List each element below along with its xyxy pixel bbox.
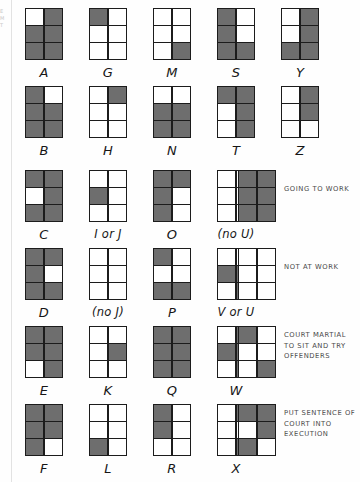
code-entry[interactable]: T bbox=[208, 86, 264, 158]
code-entry[interactable]: Q bbox=[144, 326, 200, 398]
code-entry[interactable]: M bbox=[144, 8, 200, 80]
flag-cell-4-filled bbox=[109, 344, 126, 360]
flag-cell-4-empty bbox=[109, 188, 126, 204]
code-entry[interactable]: H bbox=[80, 86, 136, 158]
flag-cell-3-empty bbox=[90, 344, 107, 360]
flag-cell-1-filled bbox=[239, 405, 256, 421]
flag-cell-4-empty bbox=[173, 188, 190, 204]
legend-entry[interactable]: COURT MARTIAL TO SIT AND TRY OFFENDERS bbox=[238, 326, 346, 378]
code-entry[interactable]: F bbox=[16, 404, 72, 476]
flag-cell-4-filled bbox=[301, 104, 318, 120]
flag-cell-2-empty bbox=[258, 327, 275, 343]
code-letter-label: I or J bbox=[80, 227, 136, 241]
code-letter-label: L bbox=[80, 461, 136, 476]
flag-grid bbox=[25, 170, 63, 222]
flag-cell-3-filled bbox=[90, 188, 107, 204]
flag-cell-3-filled bbox=[26, 344, 43, 360]
code-entry[interactable]: P bbox=[144, 248, 200, 320]
code-letter-label: D bbox=[16, 305, 72, 320]
code-letter-label: S bbox=[208, 65, 264, 80]
flag-cell-1-empty bbox=[90, 249, 107, 265]
code-entry[interactable]: C bbox=[16, 170, 72, 242]
flag-cell-6-empty bbox=[258, 283, 275, 299]
flag-cell-6-empty bbox=[173, 439, 190, 455]
code-entry[interactable]: K bbox=[80, 326, 136, 398]
code-letter-label: M bbox=[144, 65, 200, 80]
code-letter-label: (no U) bbox=[208, 227, 264, 241]
code-entry[interactable]: I or J bbox=[80, 170, 136, 241]
flag-cell-3-filled bbox=[154, 422, 171, 438]
flag-cell-1-empty bbox=[90, 405, 107, 421]
code-entry[interactable]: D bbox=[16, 248, 72, 320]
flag-cell-4-filled bbox=[45, 26, 62, 42]
flag-cell-1-empty bbox=[218, 171, 235, 187]
flag-cell-3-empty bbox=[154, 26, 171, 42]
code-letter-label: X bbox=[208, 461, 264, 476]
flag-cell-4-filled bbox=[301, 26, 318, 42]
flag-cell-2-empty bbox=[109, 249, 126, 265]
code-entry[interactable]: Z bbox=[272, 86, 328, 158]
legend-label: COURT MARTIAL TO SIT AND TRY OFFENDERS bbox=[284, 326, 346, 362]
legend-entry[interactable]: GOING TO WORK bbox=[238, 170, 349, 222]
code-entry[interactable]: N bbox=[144, 86, 200, 158]
flag-grid bbox=[153, 170, 191, 222]
code-entry[interactable]: O bbox=[144, 170, 200, 242]
flag-cell-1-empty bbox=[154, 87, 171, 103]
flag-grid bbox=[281, 8, 319, 60]
flag-cell-3-filled bbox=[218, 26, 235, 42]
flag-grid bbox=[281, 86, 319, 138]
flag-cell-2-filled bbox=[237, 87, 254, 103]
code-entry[interactable]: (no J) bbox=[80, 248, 136, 319]
flag-cell-6-filled bbox=[301, 43, 318, 59]
flag-cell-5-empty bbox=[90, 283, 107, 299]
flag-cell-6-empty bbox=[109, 439, 126, 455]
code-entry[interactable]: E bbox=[16, 326, 72, 398]
flag-cell-3-empty bbox=[282, 104, 299, 120]
flag-cell-4-filled bbox=[173, 344, 190, 360]
legend-entry[interactable]: PUT SENTENCE OF COURT INTO EXECUTION bbox=[238, 404, 355, 456]
code-entry[interactable]: R bbox=[144, 404, 200, 476]
flag-cell-5-empty bbox=[218, 205, 235, 221]
flag-cell-6-empty bbox=[301, 121, 318, 137]
flag-cell-5-empty bbox=[154, 43, 171, 59]
flag-cell-6-empty bbox=[109, 361, 126, 377]
code-letter-label: G bbox=[80, 65, 136, 80]
flag-cell-5-empty bbox=[239, 361, 256, 377]
flag-cell-1-filled bbox=[239, 327, 256, 343]
flag-grid bbox=[25, 404, 63, 456]
flag-cell-4-filled bbox=[237, 104, 254, 120]
flag-cell-3-filled bbox=[218, 344, 235, 360]
flag-cell-1-empty bbox=[218, 405, 235, 421]
flag-cell-5-filled bbox=[154, 205, 171, 221]
flag-cell-6-filled bbox=[258, 361, 275, 377]
code-entry[interactable]: B bbox=[16, 86, 72, 158]
flag-cell-1-empty bbox=[239, 249, 256, 265]
code-entry[interactable]: A bbox=[16, 8, 72, 80]
code-entry[interactable]: G bbox=[80, 8, 136, 80]
code-letter-label: Z bbox=[272, 143, 328, 158]
flag-cell-2-empty bbox=[258, 249, 275, 265]
flag-cell-2-filled bbox=[45, 327, 62, 343]
flag-cell-3-empty bbox=[218, 422, 235, 438]
flag-cell-4-filled bbox=[173, 104, 190, 120]
page-gutter-line bbox=[11, 0, 12, 482]
flag-cell-6-filled bbox=[45, 205, 62, 221]
flag-cell-5-filled bbox=[154, 361, 171, 377]
flag-cell-6-filled bbox=[258, 205, 275, 221]
flag-cell-1-empty bbox=[154, 9, 171, 25]
code-letter-label: (no J) bbox=[80, 305, 136, 319]
flag-cell-1-filled bbox=[26, 249, 43, 265]
flag-cell-2-filled bbox=[258, 171, 275, 187]
flag-cell-6-filled bbox=[173, 283, 190, 299]
flag-cell-5-empty bbox=[282, 121, 299, 137]
flag-cell-5-empty bbox=[90, 205, 107, 221]
code-entry[interactable]: L bbox=[80, 404, 136, 476]
flag-cell-3-filled bbox=[154, 344, 171, 360]
flag-cell-1-filled bbox=[218, 87, 235, 103]
code-entry[interactable]: S bbox=[208, 8, 264, 80]
legend-entry[interactable]: NOT AT WORK bbox=[238, 248, 338, 300]
flag-cell-5-filled bbox=[154, 121, 171, 137]
code-entry[interactable]: Y bbox=[272, 8, 328, 80]
flag-cell-1-empty bbox=[218, 327, 235, 343]
flag-cell-6-filled bbox=[237, 121, 254, 137]
